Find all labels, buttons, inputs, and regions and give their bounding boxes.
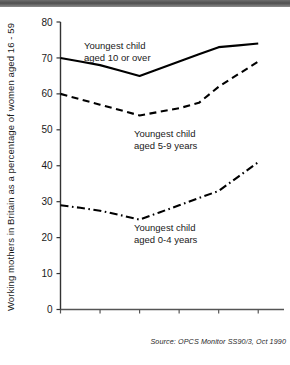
annotation-line1: Youngest child: [134, 128, 195, 139]
y-tick-label: 20: [41, 232, 53, 243]
annotation-series-5-9-years: Youngest child aged 5-9 years: [134, 128, 198, 151]
y-tick-label: 70: [41, 53, 53, 64]
chart-figure: Working mothers in Britain as a percenta…: [0, 7, 290, 365]
x-tick-label: 1983: [128, 317, 151, 319]
x-tick-label: 1979: [49, 317, 72, 319]
x-tick-label: 1987: [208, 317, 231, 319]
x-tick-label: 1989: [247, 317, 270, 319]
y-tick-label: 10: [41, 268, 53, 279]
y-tick-label: 60: [41, 88, 53, 99]
y-tick-label: 30: [41, 196, 53, 207]
annotation-series-0-4-years: Youngest child aged 0-4 years: [134, 222, 198, 245]
annotation-line2: aged 10 or over: [84, 52, 151, 63]
top-decorative-bar: [0, 0, 290, 7]
plot-area: 01020304050607080 1979198119831985198719…: [22, 13, 290, 318]
y-tick-label: 80: [41, 17, 53, 28]
annotation-line2: aged 5-9 years: [134, 140, 198, 151]
y-axis-title-container: Working mothers in Britain as a percenta…: [0, 17, 22, 317]
annotation-line2: aged 0-4 years: [134, 234, 198, 245]
series-line-2: [61, 162, 259, 220]
x-tick-label: 1981: [89, 317, 112, 319]
annotation-series-10-or-over: Youngest child aged 10 or over: [84, 40, 151, 63]
x-axis-tick-labels: 197919811983198519871989: [49, 317, 269, 319]
source-note: Source: OPCS Monitor SS90/3, Oct 1990: [150, 337, 286, 346]
y-tick-label: 0: [47, 304, 53, 315]
x-tick-label: 1985: [168, 317, 191, 319]
line-chart-svg: 01020304050607080 1979198119831985198719…: [22, 13, 290, 318]
annotation-line1: Youngest child: [84, 40, 145, 51]
y-tick-label: 40: [41, 160, 53, 171]
y-axis-title: Working mothers in Britain as a percenta…: [0, 17, 22, 317]
y-axis-tick-labels: 01020304050607080: [41, 17, 53, 316]
y-tick-label: 50: [41, 124, 53, 135]
annotation-line1: Youngest child: [134, 222, 195, 233]
